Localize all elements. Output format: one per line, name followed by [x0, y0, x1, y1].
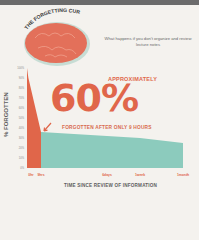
series-area-0 [27, 68, 41, 168]
y-tick-label: 60% [19, 106, 25, 110]
x-tick-label: 6days [102, 173, 112, 177]
y-tick-label: 0% [20, 166, 24, 170]
callout-value: 60% [50, 76, 138, 120]
y-tick-label: 80% [19, 86, 25, 90]
callout-suffix: FORGOTTEN AFTER ONLY 9 HOURS [62, 125, 152, 130]
series-area-1 [41, 132, 183, 168]
x-tick-label: 0hr [28, 173, 34, 177]
y-tick-label: 100% [17, 66, 24, 70]
y-tick-label: 30% [19, 136, 25, 140]
y-tick-label: 40% [19, 126, 25, 130]
x-tick-label: 9hrs [37, 173, 44, 177]
y-tick-label: 70% [19, 96, 25, 100]
y-tick-label: 20% [19, 146, 25, 150]
y-axis-label: % FORGOTTEN [3, 97, 9, 137]
y-tick-label: 10% [19, 156, 25, 160]
y-tick-label: 90% [19, 76, 25, 80]
x-axis-label: TIME SINCE REVIEW OF INFORMATION [64, 183, 157, 188]
x-tick-label: 1month [177, 173, 189, 177]
y-tick-label: 50% [19, 116, 25, 120]
x-tick-label: 1week [135, 173, 145, 177]
annotation-arrow-icon [44, 123, 51, 131]
